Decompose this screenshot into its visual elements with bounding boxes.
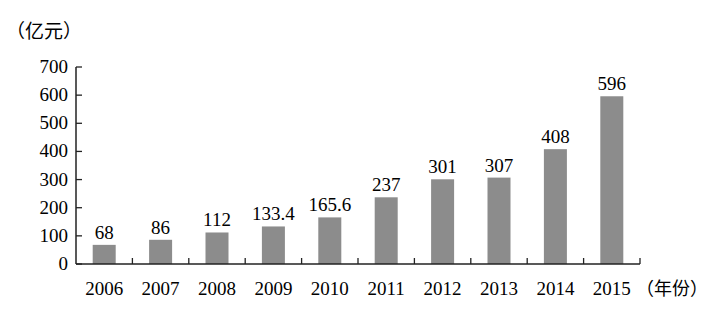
y-tick-label: 500 [40, 112, 69, 133]
y-tick-label: 600 [40, 84, 69, 105]
value-label: 165.6 [308, 194, 351, 215]
bar-chart: （亿元） 0100200300400500600700 6886112133.4… [0, 0, 726, 324]
value-label: 301 [428, 156, 457, 177]
bar-2013 [488, 178, 511, 264]
bar-2008 [206, 232, 229, 264]
value-label: 237 [372, 174, 401, 195]
value-label: 112 [203, 209, 231, 230]
y-tick-label: 0 [59, 253, 69, 274]
x-tick-label: 2009 [254, 278, 292, 299]
bar-2015 [600, 96, 623, 264]
y-tick-label: 200 [40, 197, 69, 218]
y-axis: 0100200300400500600700 [40, 56, 83, 274]
x-axis: 2006200720082009201020112012201320142015 [76, 258, 640, 299]
value-label: 68 [95, 222, 114, 243]
x-tick-label: 2014 [536, 278, 575, 299]
bar-2012 [431, 179, 454, 264]
value-label: 408 [541, 126, 570, 147]
x-tick-label: 2008 [198, 278, 236, 299]
bar-2014 [544, 149, 567, 264]
value-label: 133.4 [252, 203, 295, 224]
value-label: 596 [598, 73, 627, 94]
y-tick-label: 100 [40, 225, 69, 246]
y-tick-label: 400 [40, 140, 69, 161]
bar-2010 [318, 217, 341, 264]
bar-2009 [262, 226, 285, 264]
value-label: 307 [485, 155, 514, 176]
value-label: 86 [151, 217, 170, 238]
y-tick-label: 700 [40, 56, 69, 77]
bars: 6886112133.4165.6237301307408596 [93, 73, 626, 264]
bar-2007 [149, 240, 172, 264]
x-tick-label: 2012 [424, 278, 462, 299]
x-tick-label: 2010 [311, 278, 349, 299]
y-tick-label: 300 [40, 169, 69, 190]
bar-2011 [375, 197, 398, 264]
bar-2006 [93, 245, 116, 264]
x-tick-label: 2015 [593, 278, 631, 299]
x-tick-label: 2006 [85, 278, 123, 299]
x-tick-label: 2007 [142, 278, 180, 299]
y-axis-label: （亿元） [6, 20, 82, 42]
x-tick-label: 2013 [480, 278, 518, 299]
x-axis-label: （年份） [636, 278, 708, 299]
x-tick-label: 2011 [368, 278, 405, 299]
